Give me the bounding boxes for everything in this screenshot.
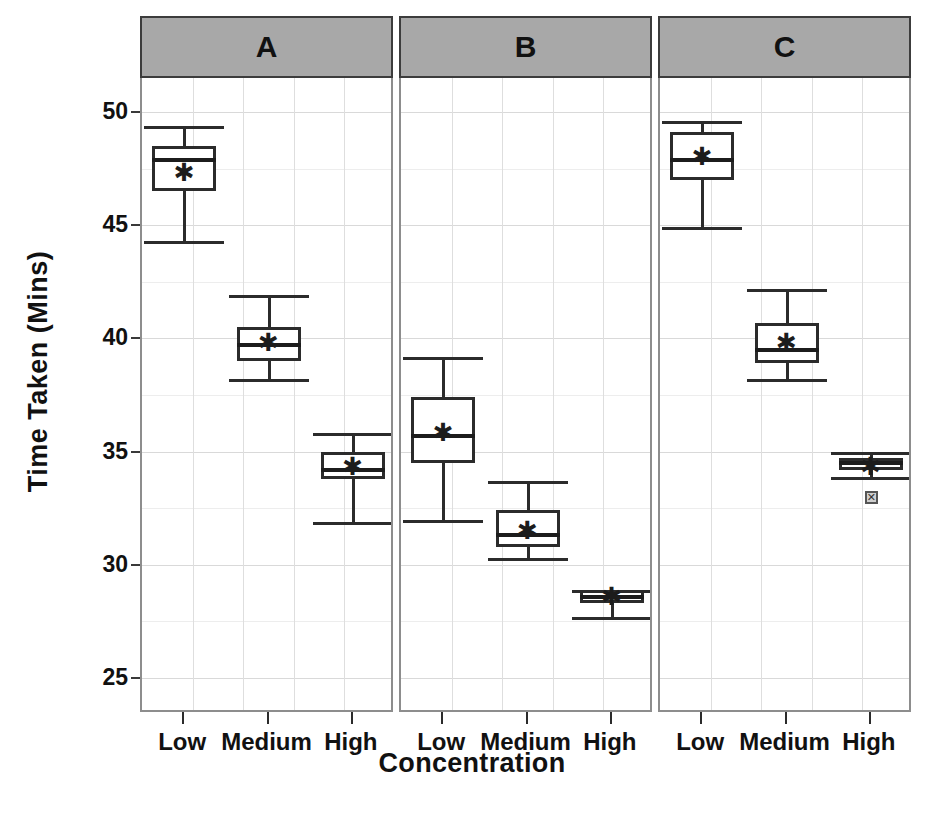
y-tick-mark <box>131 224 140 226</box>
whisker-cap-lower <box>572 617 652 620</box>
whisker-upper <box>183 126 186 146</box>
whisker-cap-lower <box>229 379 309 382</box>
whisker-cap-upper <box>488 481 568 484</box>
boxplot-figure: Time Taken (Mins) Concentration 50454035… <box>0 0 944 825</box>
panel-b: B✱✱✱ <box>399 16 652 712</box>
whisker-cap-lower <box>662 227 742 230</box>
whisker-lower <box>786 363 789 379</box>
whisker-cap-lower <box>747 379 827 382</box>
x-tick-mark <box>610 712 612 724</box>
y-tick-label: 30 <box>76 553 128 576</box>
x-tick-mark <box>785 712 787 724</box>
x-tick-mark <box>526 712 528 724</box>
boxplot-b-medium[interactable]: ✱ <box>496 78 560 710</box>
whisker-upper <box>268 295 271 327</box>
y-tick-label: 35 <box>76 440 128 463</box>
y-tick-label: 40 <box>76 326 128 349</box>
whisker-cap-lower <box>403 520 483 523</box>
boxplot-b-low[interactable]: ✱ <box>411 78 475 710</box>
whisker-lower <box>352 479 355 522</box>
boxplot-a-high[interactable]: ✱ <box>321 78 385 710</box>
whisker-cap-upper <box>662 121 742 124</box>
boxplot-c-high[interactable]: ✱✕ <box>839 78 903 710</box>
boxplot-c-medium[interactable]: ✱ <box>755 78 819 710</box>
panel-header-b: B <box>399 16 652 78</box>
y-tick-mark <box>131 111 140 113</box>
whisker-cap-upper <box>313 433 393 436</box>
x-tick-mark <box>351 712 353 724</box>
y-tick-mark <box>131 337 140 339</box>
whisker-cap-lower <box>313 522 393 525</box>
whisker-cap-lower <box>488 558 568 561</box>
boxplot-a-low[interactable]: ✱ <box>152 78 216 710</box>
x-tick-mark <box>182 712 184 724</box>
whisker-cap-upper <box>229 295 309 298</box>
y-tick-label: 25 <box>76 666 128 689</box>
whisker-cap-upper <box>747 289 827 292</box>
whisker-cap-upper <box>403 357 483 360</box>
whisker-cap-upper <box>144 126 224 129</box>
y-tick-mark <box>131 677 140 679</box>
whisker-lower <box>527 547 530 558</box>
y-tick-mark <box>131 564 140 566</box>
panel-a: A✱✱✱ <box>140 16 393 712</box>
panel-c: C✱✱✱✕ <box>658 16 911 712</box>
boxplot-c-low[interactable]: ✱ <box>670 78 734 710</box>
whisker-upper <box>442 357 445 398</box>
boxplot-b-high[interactable]: ✱ <box>580 78 644 710</box>
whisker-lower <box>442 463 445 520</box>
y-tick-label: 50 <box>76 100 128 123</box>
x-tick-mark <box>700 712 702 724</box>
x-tick-mark <box>441 712 443 724</box>
panel-plot-area-c: ✱✱✱✕ <box>658 78 911 712</box>
whisker-cap-lower <box>144 241 224 244</box>
y-axis-label: Time Taken (Mins) <box>23 172 54 572</box>
whisker-upper <box>527 481 530 510</box>
boxplot-a-medium[interactable]: ✱ <box>237 78 301 710</box>
panel-header-a: A <box>140 16 393 78</box>
x-tick-label-high: High <box>809 728 929 756</box>
panel-plot-area-b: ✱✱✱ <box>399 78 652 712</box>
outlier-marker: ✕ <box>865 491 878 504</box>
whisker-upper <box>786 289 789 323</box>
x-tick-mark <box>869 712 871 724</box>
y-tick-label: 45 <box>76 213 128 236</box>
whisker-lower <box>183 191 186 241</box>
whisker-lower <box>268 361 271 379</box>
panel-header-c: C <box>658 16 911 78</box>
x-tick-mark <box>267 712 269 724</box>
panel-plot-area-a: ✱✱✱ <box>140 78 393 712</box>
y-tick-mark <box>131 451 140 453</box>
whisker-lower <box>701 180 704 228</box>
